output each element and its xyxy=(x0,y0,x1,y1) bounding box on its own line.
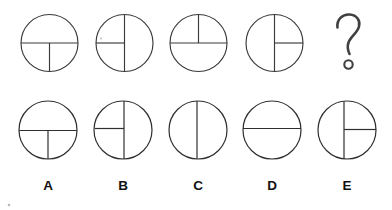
option-d-label: D xyxy=(267,178,277,193)
puzzle-canvas: A B C D E xyxy=(0,0,392,210)
scan-speck-corner xyxy=(8,204,11,207)
option-e-label: E xyxy=(342,178,351,193)
option-b-label: B xyxy=(118,178,128,193)
scan-speck xyxy=(100,38,102,40)
option-c-label: C xyxy=(193,178,203,193)
option-a-label: A xyxy=(43,178,53,193)
